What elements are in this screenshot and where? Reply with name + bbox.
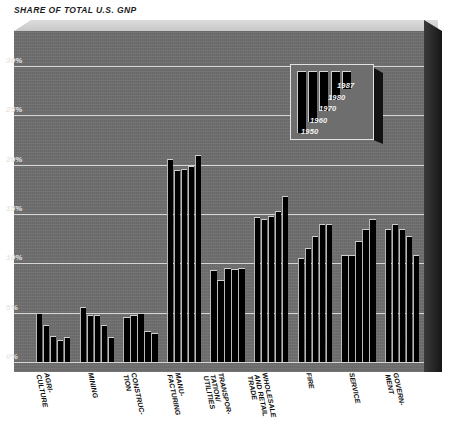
y-axis-tick-label: 15% (6, 204, 23, 213)
bar (413, 255, 419, 362)
bar (305, 248, 311, 362)
bar (282, 196, 288, 362)
x-axis-category-labels: AGRI- CULTUREMININGCONSTRUC- TIONMANU- F… (14, 372, 438, 422)
bar (319, 224, 325, 362)
bar (144, 331, 150, 362)
bar (224, 268, 230, 362)
bar (188, 166, 194, 362)
legend-label: 1987 (337, 81, 369, 90)
y-axis-tick-label: 25% (6, 105, 23, 114)
bar (268, 216, 274, 362)
bar (341, 255, 347, 362)
bar (369, 219, 375, 362)
legend-label: 1980 (328, 93, 369, 102)
legend-label: 1960 (310, 116, 369, 125)
chart-title: SHARE OF TOTAL U.S. GNP (14, 5, 137, 15)
bar (195, 155, 201, 362)
bar-group (123, 31, 158, 372)
y-axis-tick-label: 5% (6, 303, 18, 312)
bar (217, 280, 223, 362)
bar (80, 307, 86, 362)
bar (275, 211, 281, 362)
bar (50, 336, 56, 362)
bar (385, 229, 391, 362)
bar (108, 337, 114, 362)
x-axis-label: WHOLESALE AND RETAIL TRADE (246, 372, 278, 421)
bar (348, 255, 354, 362)
y-axis-tick-label: 20% (6, 155, 23, 164)
x-axis-label: TRANSPOR- TATION/ UTILITIES (202, 372, 233, 418)
bar (392, 224, 398, 362)
bar (137, 313, 143, 362)
bar (399, 229, 405, 362)
bar (43, 325, 49, 362)
x-axis-label: SERVICE (348, 372, 362, 404)
y-axis-tick-label: 30% (6, 56, 23, 65)
bar (231, 269, 237, 362)
bar (123, 317, 129, 362)
bar-group (385, 31, 420, 372)
bar (94, 315, 100, 362)
bar (326, 224, 332, 362)
bar (355, 241, 361, 362)
chart-3d-top-face (14, 20, 438, 31)
bar (57, 340, 63, 362)
bar (298, 258, 304, 362)
bar-group (210, 31, 245, 372)
x-axis-label: MINING (86, 372, 99, 399)
bar-group (80, 31, 115, 372)
bar (312, 236, 318, 362)
bar-group (167, 31, 202, 372)
bar (151, 333, 157, 362)
bar (174, 170, 180, 362)
bar (87, 315, 93, 362)
bar (36, 313, 42, 362)
legend-3d-shadow (374, 68, 383, 144)
bar (406, 236, 412, 362)
y-axis-tick-label: 10% (6, 253, 23, 262)
bar (261, 219, 267, 362)
x-axis-label: MANU- FACTURING (166, 372, 190, 416)
legend-label: 1950 (301, 127, 369, 136)
x-axis-label: FIRE (304, 372, 315, 390)
y-axis-tick-label: 0% (6, 352, 18, 361)
bar (181, 169, 187, 362)
chart-figure: SHARE OF TOTAL U.S. GNP 0%5%10%15%20%25%… (0, 0, 456, 422)
bar (64, 337, 70, 362)
x-axis-label: GOVERN- MENT (384, 372, 406, 408)
legend: 19871980197019601950 (290, 64, 374, 140)
bar (254, 217, 260, 362)
legend-label: 1970 (319, 104, 369, 113)
bar (167, 159, 173, 362)
bar (238, 268, 244, 362)
x-axis-label: CONSTRUC- TION (122, 372, 146, 417)
legend-swatch-1950 (297, 71, 306, 133)
x-axis-label: AGRI- CULTURE (35, 372, 57, 408)
bar (130, 315, 136, 362)
bar-group (36, 31, 71, 372)
bar (362, 229, 368, 362)
chart-3d-right-face (424, 20, 442, 372)
bar-group (254, 31, 289, 372)
legend-swatch-1960 (308, 71, 317, 122)
bar (101, 325, 107, 362)
bar (210, 270, 216, 362)
